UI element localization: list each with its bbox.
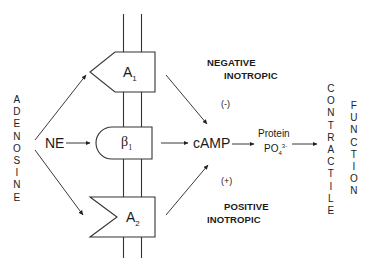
vertical-letter: O <box>327 95 335 107</box>
beta1-label: β1 <box>121 134 132 152</box>
a2-label: A2 <box>126 209 140 228</box>
vertical-letter: S <box>14 155 21 167</box>
vertical-letter: L <box>328 193 334 205</box>
vertical-letter: C <box>350 137 357 149</box>
positive-label-line2: INOTROPIC <box>207 214 261 225</box>
a1-label-name: A <box>123 64 132 80</box>
po4-text: PO <box>264 143 278 154</box>
vertical-letter: F <box>351 100 357 112</box>
po4-label: PO43- <box>264 143 287 156</box>
vertical-letter: C <box>327 156 334 168</box>
a2-label-name: A <box>126 209 135 225</box>
adenosine-label: ADENOSINE <box>13 94 21 204</box>
po4-sup: 3- <box>282 143 287 149</box>
vertical-letter: C <box>327 83 334 95</box>
vertical-letter: N <box>13 131 20 143</box>
vertical-letter: E <box>328 205 335 217</box>
function-label: FUNCTION <box>350 100 358 198</box>
negative-label-line2: INOTROPIC <box>224 70 278 81</box>
vertical-letter: I <box>353 161 356 173</box>
a1-to-camp-arrow <box>166 75 207 124</box>
vertical-letter: N <box>13 179 20 191</box>
beta1-label-sub: 1 <box>128 143 132 152</box>
negative-label-line1: NEGATIVE <box>207 57 256 68</box>
vertical-letter: U <box>350 112 357 124</box>
a2-label-sub: 2 <box>135 219 139 228</box>
vertical-letter: T <box>351 149 357 161</box>
vertical-letter: N <box>350 185 357 197</box>
vertical-letter: N <box>350 124 357 136</box>
a1-label: A1 <box>123 64 137 83</box>
camp-label: cAMP <box>193 135 230 151</box>
positive-label-line1: POSITIVE <box>224 201 269 212</box>
vertical-letter: O <box>13 143 21 155</box>
po4-sub: 4 <box>278 150 281 156</box>
vertical-letter: E <box>14 192 21 204</box>
negative-sign: (-) <box>221 99 230 109</box>
protein-label: Protein <box>258 128 290 139</box>
adenosine-to-a2-arrow <box>35 150 83 215</box>
ne-label: NE <box>45 135 64 151</box>
vertical-letter: D <box>13 106 20 118</box>
a2-receptor-shape <box>90 197 155 237</box>
vertical-letter: N <box>327 107 334 119</box>
a2-to-camp-arrow <box>166 165 208 215</box>
vertical-letter: A <box>328 144 335 156</box>
vertical-letter: E <box>14 118 21 130</box>
vertical-letter: T <box>328 168 334 180</box>
vertical-letter: I <box>330 181 333 193</box>
adenosine-to-a1-arrow <box>35 75 86 140</box>
a1-label-sub: 1 <box>132 74 136 83</box>
vertical-letter: O <box>350 173 358 185</box>
vertical-letter: R <box>327 132 334 144</box>
vertical-letter: I <box>16 167 19 179</box>
contractile-label: CONTRACTILE <box>327 83 335 217</box>
positive-sign: (+) <box>221 176 232 186</box>
vertical-letter: T <box>328 120 334 132</box>
vertical-letter: A <box>14 94 21 106</box>
